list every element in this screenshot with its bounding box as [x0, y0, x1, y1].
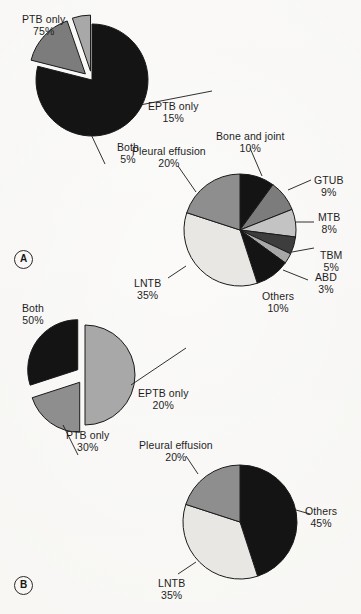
slice-label-pleural-effusion: Pleural effusion20% [139, 440, 213, 463]
pie-chart-panel-b-eptb-sites: Others 45%LNTB 35%Pleural effusion 20% [183, 465, 297, 579]
slice-label-eptb-only: EPTB only20% [138, 388, 189, 411]
leader-line-gtub-a [288, 180, 311, 190]
slice-label-gtub: GTUB9% [314, 175, 344, 198]
slice-label-others: Others10% [262, 291, 294, 314]
pie-slice-eptb-only[interactable]: EPTB only 20% [32, 382, 80, 432]
slice-label-eptb-only: EPTB only15% [148, 101, 199, 124]
slice-label-name: EPTB only [138, 387, 189, 399]
slice-label-percent: 20% [138, 400, 189, 412]
slice-label-percent: 15% [148, 113, 199, 125]
slice-label-percent: 8% [318, 224, 340, 236]
slice-label-ptb-only: PTB only75% [22, 14, 65, 37]
slice-label-name: GTUB [314, 174, 344, 186]
slice-label-both: Both50% [22, 303, 44, 326]
slice-label-mtb: MTB8% [318, 212, 340, 235]
slice-label-name: Both [22, 302, 44, 314]
slice-label-name: EPTB only [148, 100, 199, 112]
slice-label-percent: 10% [216, 143, 285, 155]
leader-line-eptb-only-b [131, 348, 186, 385]
slice-label-percent: 3% [315, 284, 337, 296]
slice-label-name: Bone and joint [216, 130, 285, 142]
slice-label-ptb-only: PTB only30% [66, 430, 109, 453]
slice-label-percent: 35% [158, 590, 185, 602]
pie-slice-ptb-only[interactable]: PTB only 30% [28, 320, 78, 385]
slice-label-percent: 10% [262, 303, 294, 315]
slice-label-percent: 30% [66, 442, 109, 454]
slice-label-name: MTB [318, 211, 340, 223]
slice-label-percent: 45% [305, 518, 337, 530]
pie-chart-panel-a-eptb-sites: Bone and joint 10%GTUB 9%MTB 8%TBM 5%ABD… [184, 174, 296, 286]
slice-label-percent: 75% [22, 26, 65, 38]
slice-label-lntb: LNTB35% [158, 578, 185, 601]
slice-label-name: Pleural effusion [132, 145, 206, 157]
slice-label-pleural-effusion: Pleural effusion20% [132, 146, 206, 169]
slice-label-name: PTB only [66, 429, 109, 441]
leader-line-lntb-a [168, 266, 186, 278]
slice-label-percent: 20% [132, 158, 206, 170]
leader-line-lntb-b [178, 562, 196, 574]
slice-label-bone-and-joint: Bone and joint10% [216, 131, 285, 154]
panel-tag-b: B [14, 576, 33, 595]
leader-line-pleural-a [178, 166, 196, 192]
figure-root: PTB only 75%EPTB only 15%Both 5%Bone and… [0, 0, 361, 614]
slice-label-percent: 20% [139, 452, 213, 464]
slice-label-name: PTB only [22, 13, 65, 25]
slice-label-name: LNTB [158, 577, 185, 589]
slice-label-tbm: TBM5% [320, 250, 342, 273]
pie-slice-both[interactable]: Both 50% [85, 325, 135, 425]
slice-label-others: Others45% [305, 506, 337, 529]
panel-tag-a: A [14, 250, 33, 269]
leader-line-abd-a [283, 270, 308, 280]
slice-label-name: TBM [320, 249, 342, 261]
slice-label-name: Others [262, 290, 294, 302]
slice-label-name: LNTB [134, 277, 161, 289]
slice-label-percent: 35% [134, 290, 161, 302]
slice-label-name: Others [305, 505, 337, 517]
slice-label-percent: 9% [314, 187, 344, 199]
slice-label-lntb: LNTB35% [134, 278, 161, 301]
leader-line-tbm-a [292, 248, 314, 252]
slice-label-abd: ABD3% [315, 272, 337, 295]
slice-label-name: ABD [315, 271, 337, 283]
slice-label-name: Pleural effusion [139, 439, 213, 451]
pie-chart-panel-b-tb-type: Both 50%EPTB only 20%PTB only 30% [28, 320, 135, 433]
slice-label-percent: 50% [22, 315, 44, 327]
